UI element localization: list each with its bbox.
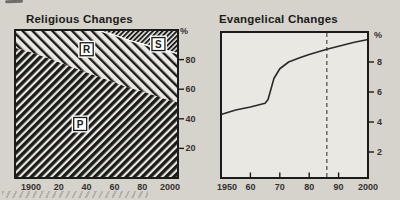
left-x-tick-label: 40	[82, 182, 92, 192]
right-y-axis-unit-label: %	[374, 30, 382, 40]
left-y-tick-label: 60	[186, 84, 196, 94]
left-y-axis-unit-label: %	[180, 26, 188, 36]
left-y-tick-label: 80	[186, 55, 196, 65]
right-y-tick-label: 8	[377, 57, 382, 67]
charts-canvas: PRS	[0, 0, 400, 200]
left-y-tick-label: 40	[186, 114, 196, 124]
right-x-tick-label: 2000	[358, 182, 378, 192]
left-x-tick-label: 1900	[21, 182, 41, 192]
left-x-tick-label: 2000	[160, 182, 180, 192]
left-chart-title: Religious Changes	[26, 13, 133, 25]
right-x-tick-label: 1950	[217, 182, 237, 192]
left-y-tick-label: 20	[186, 143, 196, 153]
left-x-tick-label: 80	[137, 182, 147, 192]
right-x-tick-label: 80	[304, 182, 314, 192]
right-y-tick-label: 2	[377, 147, 382, 157]
region-label-R: R	[83, 44, 91, 55]
region-label-P: P	[77, 119, 84, 130]
left-x-tick-label: 20	[54, 182, 64, 192]
scan-artifact-smear	[2, 191, 148, 198]
region-label-S: S	[155, 39, 162, 50]
scanned-figure: PRS Religious Changes Evangelical Change…	[0, 0, 400, 200]
right-chart-title: Evangelical Changes	[219, 13, 338, 25]
right-x-tick-label: 60	[245, 182, 255, 192]
right-x-tick-label: 70	[275, 182, 285, 192]
right-y-tick-label: 4	[377, 117, 382, 127]
left-x-tick-label: 60	[109, 182, 119, 192]
right-y-tick-label: 6	[377, 87, 382, 97]
right-x-tick-label: 90	[334, 182, 344, 192]
